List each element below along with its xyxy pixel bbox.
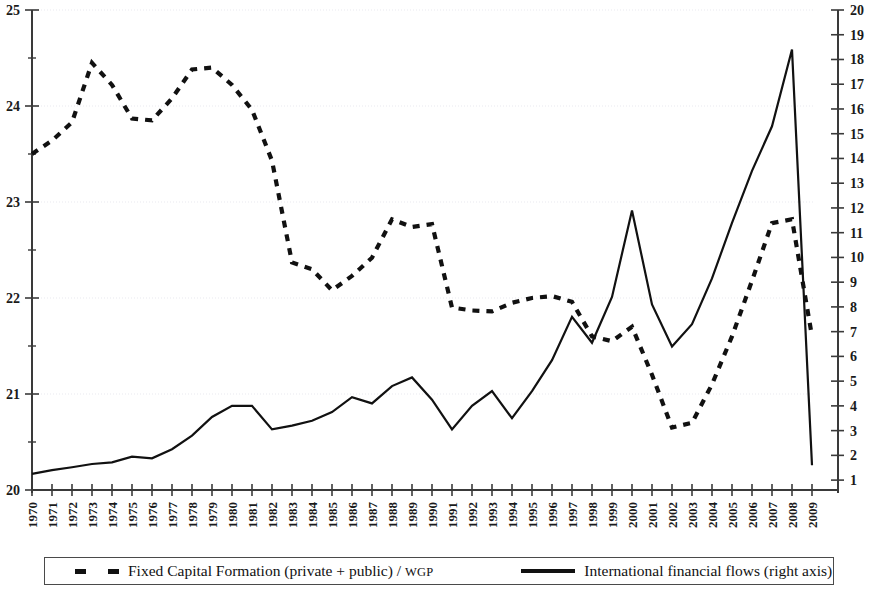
svg-text:1974: 1974 (105, 502, 120, 529)
svg-text:1976: 1976 (145, 502, 160, 529)
legend-item-international-financial-flows: International financial flows (right axi… (521, 562, 832, 580)
svg-text:1997: 1997 (565, 502, 580, 529)
svg-text:2002: 2002 (665, 502, 680, 528)
svg-text:1981: 1981 (245, 502, 260, 528)
svg-text:20: 20 (850, 3, 864, 18)
svg-text:21: 21 (6, 387, 20, 402)
svg-text:1982: 1982 (265, 502, 280, 528)
svg-text:2003: 2003 (685, 502, 700, 529)
svg-text:1978: 1978 (185, 502, 200, 529)
svg-text:1972: 1972 (65, 502, 80, 528)
svg-text:1984: 1984 (305, 502, 320, 529)
left-axis: 202122232425 (6, 3, 39, 498)
svg-text:1994: 1994 (505, 502, 520, 529)
svg-text:1996: 1996 (545, 502, 560, 529)
svg-text:2009: 2009 (805, 502, 820, 529)
svg-text:1980: 1980 (225, 502, 240, 528)
svg-text:1999: 1999 (605, 502, 620, 529)
svg-text:2005: 2005 (725, 502, 740, 529)
svg-text:2008: 2008 (785, 502, 800, 529)
svg-text:1977: 1977 (165, 502, 180, 529)
svg-text:1992: 1992 (465, 502, 480, 528)
svg-text:2004: 2004 (705, 502, 720, 529)
svg-text:1975: 1975 (125, 502, 140, 529)
svg-text:1983: 1983 (285, 502, 300, 529)
svg-text:1993: 1993 (485, 502, 500, 529)
x-axis: 1970197119721973197419751976197719781979… (25, 484, 838, 528)
svg-text:2000: 2000 (625, 502, 640, 528)
svg-text:1988: 1988 (385, 502, 400, 529)
svg-text:24: 24 (6, 99, 20, 114)
svg-text:1986: 1986 (345, 502, 360, 529)
svg-text:1970: 1970 (25, 502, 40, 528)
svg-text:1989: 1989 (405, 502, 420, 529)
chart-svg: 202122232425 123456789101112131415161718… (0, 0, 875, 555)
chart-legend: Fixed Capital Formation (private + publi… (44, 557, 834, 585)
right-axis: 1234567891011121314151617181920 (831, 3, 864, 493)
svg-text:12: 12 (850, 201, 864, 216)
svg-text:1998: 1998 (585, 502, 600, 529)
series-line-1 (32, 63, 812, 428)
svg-text:1: 1 (850, 473, 857, 488)
svg-text:2006: 2006 (745, 502, 760, 529)
svg-text:2: 2 (850, 448, 857, 463)
svg-text:1971: 1971 (45, 502, 60, 528)
svg-text:25: 25 (6, 3, 20, 18)
legend-label-main-1: Fixed Capital Formation (private + publi… (128, 562, 405, 579)
svg-text:20: 20 (6, 483, 20, 498)
legend-label-smallcaps-1: WGP (405, 565, 433, 579)
chart-figure: 202122232425 123456789101112131415161718… (0, 0, 875, 590)
svg-text:8: 8 (850, 300, 857, 315)
svg-text:1987: 1987 (365, 502, 380, 529)
svg-text:23: 23 (6, 195, 20, 210)
svg-text:17: 17 (850, 77, 864, 92)
solid-line-swatch-icon (521, 569, 575, 573)
svg-text:2007: 2007 (765, 502, 780, 529)
dashed-line-swatch-icon (75, 565, 119, 577)
svg-text:18: 18 (850, 52, 864, 67)
svg-text:1991: 1991 (445, 502, 460, 528)
svg-text:3: 3 (850, 424, 857, 439)
svg-text:14: 14 (850, 151, 864, 166)
svg-text:13: 13 (850, 176, 864, 191)
svg-text:1973: 1973 (85, 502, 100, 529)
svg-text:1979: 1979 (205, 502, 220, 529)
svg-text:5: 5 (850, 374, 857, 389)
svg-text:2001: 2001 (645, 502, 660, 528)
svg-text:10: 10 (850, 250, 864, 265)
svg-text:22: 22 (6, 291, 20, 306)
svg-text:16: 16 (850, 102, 864, 117)
svg-text:1985: 1985 (325, 502, 340, 529)
series-line-2 (32, 50, 812, 474)
legend-item-fixed-capital-formation: Fixed Capital Formation (private + publi… (75, 562, 433, 580)
chart-plot-area: 202122232425 123456789101112131415161718… (0, 0, 875, 555)
svg-text:6: 6 (850, 349, 857, 364)
svg-text:15: 15 (850, 127, 864, 142)
svg-text:1995: 1995 (525, 502, 540, 529)
legend-label-fixed-capital-formation: Fixed Capital Formation (private + publi… (128, 562, 433, 580)
svg-text:11: 11 (850, 226, 863, 241)
svg-text:4: 4 (850, 399, 857, 414)
legend-label-international-financial-flows: International financial flows (right axi… (584, 562, 832, 580)
svg-text:9: 9 (850, 275, 857, 290)
data-series-group (32, 50, 812, 474)
svg-text:19: 19 (850, 28, 864, 43)
svg-text:7: 7 (850, 325, 857, 340)
svg-text:1990: 1990 (425, 502, 440, 528)
